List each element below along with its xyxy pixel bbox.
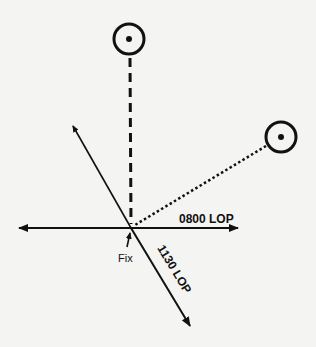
lop-1130-line-upper bbox=[73, 126, 131, 228]
fix-pointer-arrow bbox=[127, 233, 130, 247]
lop-fix-diagram: 0800 LOP Fix 1130 LOP bbox=[0, 0, 316, 347]
bearing-line-dashed bbox=[130, 58, 131, 224]
fix-label: Fix bbox=[118, 252, 133, 264]
lop-0800-label: 0800 LOP bbox=[179, 212, 234, 226]
lop-1130-label: 1130 LOP bbox=[154, 242, 194, 296]
celestial-body-top-icon bbox=[114, 24, 144, 54]
celestial-body-right-icon bbox=[266, 122, 296, 152]
